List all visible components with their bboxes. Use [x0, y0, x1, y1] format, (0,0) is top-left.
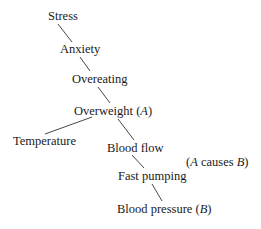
edge-bloodflow-fastpumping — [132, 155, 144, 168]
edge-overweight-temperature — [45, 117, 92, 134]
edge-fastpumping-bloodpressure — [152, 184, 162, 201]
edge-overweight-bloodflow — [118, 119, 134, 140]
edge-stress-anxiety — [58, 24, 72, 42]
node-blood-flow: Blood flow — [107, 141, 164, 155]
edge-overeating-overweight — [98, 87, 110, 103]
causes-text: causes — [198, 155, 237, 169]
node-anxiety: Anxiety — [60, 42, 100, 56]
node-blood-pressure-label: Blood pressure ( — [117, 202, 200, 216]
node-fast-pumping: Fast pumping — [118, 169, 186, 183]
node-blood-pressure: Blood pressure (B) — [117, 202, 211, 216]
node-temperature: Temperature — [13, 134, 76, 148]
variable-a: A — [190, 155, 198, 169]
variable-a: A — [140, 104, 148, 118]
node-stress: Stress — [48, 9, 78, 23]
close-paren: ) — [244, 155, 248, 169]
edge-anxiety-overeating — [80, 57, 90, 71]
node-overeating: Overeating — [72, 72, 128, 86]
node-overweight: Overweight (A) — [74, 104, 152, 118]
node-overweight-label: Overweight ( — [74, 104, 140, 118]
close-paren: ) — [207, 202, 211, 216]
annotation-a-causes-b: (A causes B) — [186, 155, 249, 169]
close-paren: ) — [148, 104, 152, 118]
